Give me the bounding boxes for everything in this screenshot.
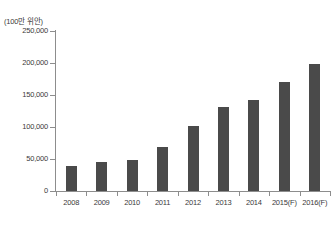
- x-axis-tick-label: 2016(F): [302, 198, 327, 207]
- bar-chart: (100만 위안) 050,000100,000150,000200,00025…: [0, 0, 334, 226]
- x-axis-tick: [208, 191, 209, 196]
- y-axis-unit-label: (100만 위안): [4, 15, 43, 26]
- x-axis-tick-label: 2008: [63, 198, 79, 207]
- x-axis-tick-label: 2013: [215, 198, 231, 207]
- bar: [188, 126, 199, 191]
- x-axis-tick: [269, 191, 270, 196]
- x-axis-tick-label: 2015(F): [272, 198, 297, 207]
- x-axis-line: [55, 191, 330, 192]
- x-axis-tick: [178, 191, 179, 196]
- bars-layer: [0, 31, 334, 191]
- x-axis-tick-label: 2011: [155, 198, 170, 207]
- bar: [157, 147, 168, 191]
- x-axis-tick: [330, 191, 331, 196]
- x-axis-tick: [56, 191, 57, 196]
- bar: [309, 64, 320, 191]
- x-axis-tick: [300, 191, 301, 196]
- x-axis-tick: [239, 191, 240, 196]
- x-axis-tick: [117, 191, 118, 196]
- bar: [127, 160, 138, 191]
- bar: [248, 100, 259, 191]
- bar: [279, 82, 290, 191]
- x-axis-tick-label: 2010: [124, 198, 140, 207]
- x-axis-tick-label: 2012: [185, 198, 201, 207]
- bar: [66, 166, 77, 191]
- x-axis-tick: [86, 191, 87, 196]
- x-axis-tick-label: 2009: [94, 198, 110, 207]
- bar: [96, 162, 107, 191]
- bar: [218, 107, 229, 191]
- x-axis-tick-label: 2014: [246, 198, 262, 207]
- x-axis-tick: [147, 191, 148, 196]
